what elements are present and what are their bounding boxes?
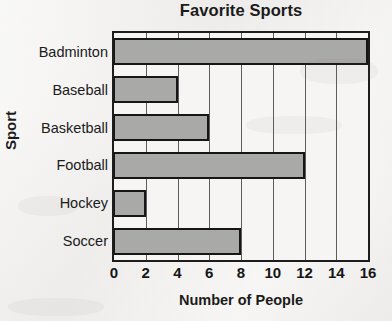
x-tick-label-16: 16 <box>348 265 388 280</box>
bar-row <box>114 114 368 141</box>
gridline-x-10 <box>273 33 274 260</box>
x-axis-title: Number of People <box>112 292 370 308</box>
gridline-x-6 <box>209 33 210 260</box>
y-tick-label-badminton: Badminton <box>0 45 108 60</box>
y-tick-label-hockey: Hockey <box>0 196 108 211</box>
gridline-x-2 <box>146 33 147 260</box>
bar-row <box>114 38 368 65</box>
y-tick-label-football: Football <box>0 158 108 173</box>
bar-baseball <box>113 76 178 103</box>
bar-row <box>114 228 368 255</box>
y-tick-label-soccer: Soccer <box>0 234 108 249</box>
y-tick-label-basketball: Basketball <box>0 121 108 136</box>
gridline-x-8 <box>241 33 242 260</box>
y-tick-label-baseball: Baseball <box>0 83 108 98</box>
bar-row <box>114 76 368 103</box>
bar-basketball <box>113 114 209 141</box>
bar-chart: Favorite Sports Sport Number of People B… <box>0 0 392 321</box>
gridline-x-14 <box>336 33 337 260</box>
bar-football <box>113 152 305 179</box>
plot-area <box>112 31 370 262</box>
chart-title: Favorite Sports <box>112 1 370 20</box>
bar-row <box>114 152 368 179</box>
bar-badminton <box>113 38 368 65</box>
gridline-x-4 <box>178 33 179 260</box>
bar-row <box>114 190 368 217</box>
bar-soccer <box>113 228 241 255</box>
gridline-x-12 <box>305 33 306 260</box>
bar-hockey <box>113 190 146 217</box>
